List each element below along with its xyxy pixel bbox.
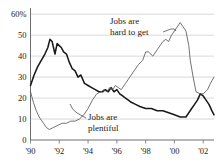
series-line-thin [31, 23, 215, 130]
x-tick-label: '96 [112, 146, 122, 156]
y-tick-label: 30 [18, 72, 27, 82]
y-tick-label: 40 [18, 51, 27, 61]
x-axis-tick-labels: '90'92'94'96'98'00'02 [25, 146, 208, 156]
x-tick-label: '00 [169, 146, 179, 156]
annotation-plentiful-line2: plentiful [88, 123, 119, 133]
y-tick-label: 0 [22, 135, 26, 145]
x-tick-label: '90 [25, 146, 35, 156]
jobs-sentiment-line-chart: 60%50403020100 '90'92'94'96'98'00'02 Job… [0, 0, 221, 163]
x-tick-label: '02 [198, 146, 208, 156]
series-line-bold [31, 39, 215, 117]
annotation-hard-to-get-line2: hard to get [110, 27, 149, 37]
y-tick-label: 50 [18, 30, 27, 40]
data-series-layer [31, 23, 215, 130]
y-tick-label: 10 [18, 114, 27, 124]
annotations-layer: Jobs are hard to get Jobs are plentiful [70, 16, 176, 133]
x-tick-label: '94 [83, 146, 94, 156]
y-axis-tick-labels: 60%50403020100 [11, 9, 27, 145]
annotation-hard-to-get-line1: Jobs are [110, 16, 139, 26]
leader-line-plentiful [70, 104, 86, 118]
x-tick-label: '92 [54, 146, 64, 156]
chart-container: 60%50403020100 '90'92'94'96'98'00'02 Job… [0, 0, 221, 163]
y-tick-label: 20 [18, 93, 27, 103]
x-axis-ticks [31, 140, 204, 144]
annotation-plentiful-line1: Jobs are [88, 112, 117, 122]
x-tick-label: '98 [141, 146, 151, 156]
y-tick-label: 60% [11, 9, 27, 19]
